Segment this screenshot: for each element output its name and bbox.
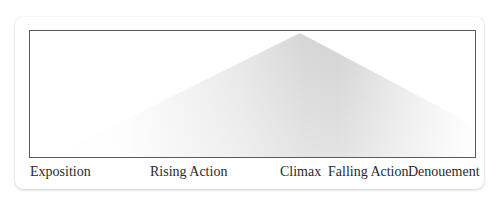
stage-label-falling-action: Falling Action [328,163,409,181]
stage-label-rising-action: Rising Action [150,163,227,181]
stage-label-denouement: Denouement [408,163,480,181]
pyramid-shape [30,31,475,157]
plot-frame [29,30,476,158]
stage-label-climax: Climax [280,163,321,181]
stage-label-exposition: Exposition [30,163,91,181]
